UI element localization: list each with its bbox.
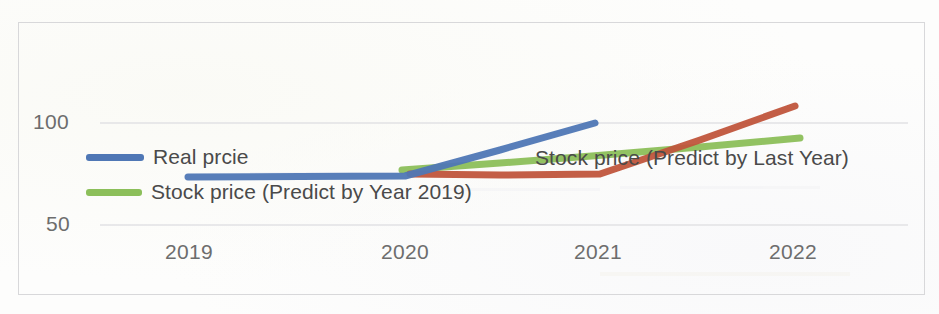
chart-screenshot: 100 50 2019 2020 2021 2022 Real prcie St…	[0, 0, 939, 314]
legend-label-predict-year-2019: Stock price (Predict by Year 2019)	[151, 180, 472, 204]
legend-item-real-price[interactable]: Real prcie	[86, 145, 249, 169]
legend-item-predict-year-2019[interactable]: Stock price (Predict by Year 2019)	[86, 180, 472, 204]
legend-swatch-real-price	[86, 154, 144, 161]
y-axis-tick-50: 50	[46, 212, 70, 236]
legend-label-predict-last-year[interactable]: Stock price (Predict by Last Year)	[535, 146, 849, 170]
legend-swatch-predict-year-2019	[86, 189, 142, 196]
y-axis-tick-100: 100	[33, 110, 69, 134]
x-axis-tick-2019: 2019	[161, 240, 217, 264]
x-axis-tick-2020: 2020	[377, 240, 433, 264]
x-axis-tick-2021: 2021	[570, 240, 626, 264]
x-axis-tick-2022: 2022	[765, 240, 821, 264]
legend-label-real-price: Real prcie	[153, 145, 249, 169]
series-line-real-price	[188, 123, 595, 177]
